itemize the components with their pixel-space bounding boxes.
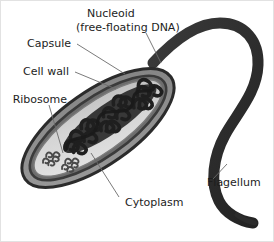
label-nucleoid-line2: (free-floating DNA) (76, 21, 180, 34)
diagram-canvas: Nucleoid (free-floating DNA) Capsule Cel… (1, 1, 274, 242)
label-ribosome: Ribosome (13, 93, 68, 106)
leader-capsule (77, 44, 125, 74)
label-cell-wall: Cell wall (23, 65, 69, 78)
label-nucleoid-line1: Nucleoid (87, 7, 135, 20)
label-capsule: Capsule (27, 37, 71, 50)
label-cytoplasm: Cytoplasm (125, 196, 183, 209)
label-flagellum: Flagellum (207, 176, 261, 189)
bacterial-cell-diagram: Nucleoid (free-floating DNA) Capsule Cel… (0, 0, 274, 242)
flagellum (153, 23, 258, 223)
